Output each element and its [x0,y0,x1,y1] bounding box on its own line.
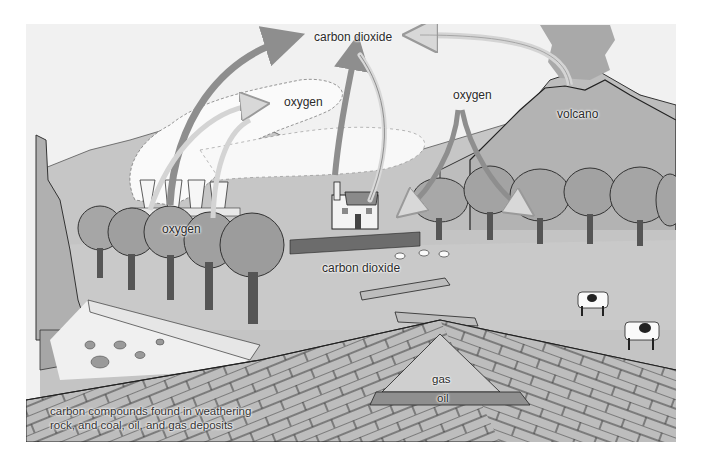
illustration-canvas [0,0,715,461]
label-carbon-dioxide-top: carbon dioxide [314,30,392,44]
caption-line-1: carbon compounds found in weathering [50,404,290,418]
caption-line-2: rock, and coal, oil, and gas deposits [50,418,290,432]
carbon-cycle-illustration: carbon dioxide oxygen oxygen volcano oxy… [0,0,715,461]
label-oxygen-right: oxygen [453,88,492,102]
label-gas: gas [432,372,451,386]
label-oxygen-trees: oxygen [162,222,201,236]
caption-carbon-compounds: carbon compounds found in weathering roc… [50,404,290,432]
label-oxygen-sky: oxygen [284,95,323,109]
label-oil: oil [437,391,449,405]
label-volcano: volcano [557,107,598,121]
oil-deposit [370,392,530,405]
label-carbon-dioxide-ground: carbon dioxide [322,261,400,275]
